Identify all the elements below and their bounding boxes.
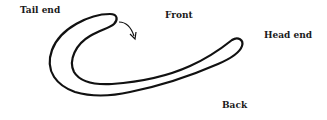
- back-label: Back: [222, 100, 247, 110]
- tail-end-label: Tail end: [20, 5, 60, 15]
- front-label: Front: [165, 10, 193, 20]
- head-end-label: Head end: [264, 30, 312, 40]
- body-outline: [50, 14, 243, 95]
- curved-body-diagram: [0, 0, 327, 120]
- curved-arrow-icon: [119, 22, 134, 36]
